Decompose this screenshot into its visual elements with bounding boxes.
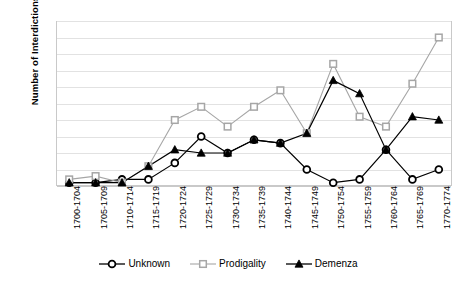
data-point-circle (171, 160, 178, 167)
data-point-circle (109, 261, 116, 268)
data-point-square (172, 117, 179, 124)
x-tick-label: 1755-1759 (364, 186, 373, 248)
x-tick-label: 1720-1724 (179, 186, 188, 248)
legend-item-unknown[interactable]: Unknown (99, 258, 170, 270)
series-line-demenza (69, 80, 439, 182)
data-point-square (409, 80, 416, 87)
data-point-circle (356, 176, 363, 183)
legend-item-prodigality[interactable]: Prodigality (190, 258, 266, 270)
x-tick-label: 1770-1774 (443, 186, 452, 248)
x-tick-label: 1715-1719 (152, 186, 161, 248)
data-point-square (198, 104, 205, 111)
x-tick-label: 1750-1754 (337, 186, 346, 248)
legend-marker-circle-icon (99, 258, 125, 270)
x-tick-label: 1705-1709 (100, 186, 109, 248)
data-point-square (436, 34, 443, 41)
legend-label: Prodigality (219, 259, 266, 269)
y-axis-title: Number of Interdictions (29, 0, 40, 131)
legend-label: Unknown (128, 259, 170, 269)
data-point-circle (435, 166, 442, 173)
series-layer (56, 21, 452, 186)
x-tick-label: 1710-1714 (126, 186, 135, 248)
x-tick-label: 1735-1739 (258, 186, 267, 248)
x-tick-label: 1760-1764 (390, 186, 399, 248)
x-tick-label: 1700-1704 (73, 186, 82, 248)
data-point-square (330, 61, 337, 68)
x-tick-label: 1765-1769 (416, 186, 425, 248)
data-point-square (200, 261, 207, 268)
data-point-square (224, 123, 231, 130)
data-point-circle (303, 166, 310, 173)
data-point-triangle (408, 113, 416, 120)
data-point-circle (198, 133, 205, 140)
legend-item-demenza[interactable]: Demenza (286, 258, 358, 270)
data-point-square (383, 123, 390, 130)
x-tick-label: 1725-1729 (205, 186, 214, 248)
legend-label: Demenza (315, 259, 358, 269)
data-point-circle (145, 176, 152, 183)
legend-marker-triangle-icon (286, 258, 312, 270)
data-point-triangle (356, 90, 364, 97)
data-point-square (356, 113, 363, 120)
legend-marker-square-icon (190, 258, 216, 270)
x-axis-tick-labels: 1700-17041705-17091710-17141715-17191720… (56, 188, 452, 250)
data-point-square (277, 87, 284, 94)
data-point-triangle (329, 76, 337, 83)
x-tick-label: 1730-1734 (232, 186, 241, 248)
x-tick-label: 1745-1749 (311, 186, 320, 248)
chart-legend: UnknownProdigalityDemenza (0, 258, 457, 270)
data-point-triangle (171, 146, 179, 153)
chart-container: Number of Interdictions 0510152025303540… (0, 0, 457, 284)
x-tick-label: 1740-1744 (284, 186, 293, 248)
data-point-circle (409, 176, 416, 183)
data-point-square (251, 104, 258, 111)
